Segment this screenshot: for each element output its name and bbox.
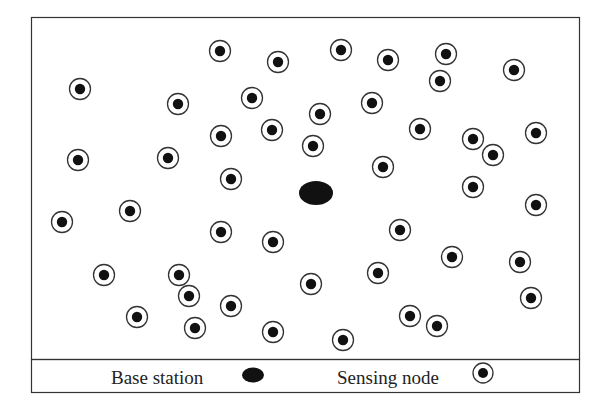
sensing-node-core bbox=[468, 134, 478, 144]
sensing-node-core bbox=[338, 335, 348, 345]
sensing-node bbox=[263, 322, 284, 343]
sensing-node-core bbox=[215, 46, 225, 56]
base-station bbox=[299, 181, 333, 205]
sensing-node bbox=[362, 93, 383, 114]
sensing-node-core bbox=[378, 162, 388, 172]
sensing-node bbox=[400, 306, 421, 327]
sensing-node-core bbox=[531, 128, 541, 138]
sensing-node bbox=[68, 150, 89, 171]
sensing-node-core bbox=[268, 237, 278, 247]
sensing-node bbox=[185, 318, 206, 339]
sensing-node-core bbox=[216, 227, 226, 237]
sensing-node-core bbox=[267, 125, 277, 135]
sensing-node bbox=[211, 222, 232, 243]
sensing-node-core bbox=[57, 217, 67, 227]
sensing-node bbox=[430, 71, 451, 92]
sensing-node bbox=[436, 44, 457, 65]
sensing-node-core bbox=[226, 301, 236, 311]
sensing-node bbox=[373, 157, 394, 178]
legend-base-station-icon bbox=[242, 368, 264, 383]
sensing-node-core bbox=[415, 124, 425, 134]
sensing-node-core bbox=[132, 312, 142, 322]
sensing-node-core bbox=[99, 270, 109, 280]
sensing-node-core bbox=[216, 131, 226, 141]
sensing-node bbox=[158, 148, 179, 169]
sensing-node-core bbox=[468, 182, 478, 192]
legend-sensing-node-label: Sensing node bbox=[337, 367, 439, 388]
sensing-node bbox=[310, 104, 331, 125]
sensing-node bbox=[333, 330, 354, 351]
sensing-node-core bbox=[367, 98, 377, 108]
sensing-node bbox=[70, 79, 91, 100]
sensing-node-core bbox=[125, 206, 135, 216]
sensing-node bbox=[221, 296, 242, 317]
sensing-node-core bbox=[174, 270, 184, 280]
sensing-node-core bbox=[315, 109, 325, 119]
sensing-node-core bbox=[190, 323, 200, 333]
sensing-node-core bbox=[509, 65, 519, 75]
sensing-node bbox=[210, 41, 231, 62]
sensing-node bbox=[463, 177, 484, 198]
sensing-node-core bbox=[447, 252, 457, 262]
sensing-node bbox=[262, 120, 283, 141]
sensing-node-core bbox=[247, 93, 257, 103]
sensing-node bbox=[427, 316, 448, 337]
sensing-nodes-group bbox=[52, 40, 547, 351]
sensing-node-core bbox=[435, 76, 445, 86]
sensing-node-core bbox=[73, 155, 83, 165]
sensing-node-core bbox=[405, 311, 415, 321]
sensing-node bbox=[211, 126, 232, 147]
sensing-node-core bbox=[75, 84, 85, 94]
sensing-node-core bbox=[173, 99, 183, 109]
sensing-node bbox=[120, 201, 141, 222]
sensing-node bbox=[368, 263, 389, 284]
sensing-node bbox=[168, 94, 189, 115]
sensing-node bbox=[221, 169, 242, 190]
sensing-node bbox=[263, 232, 284, 253]
sensing-node-core bbox=[488, 150, 498, 160]
sensing-node bbox=[52, 212, 73, 233]
sensing-node bbox=[127, 307, 148, 328]
sensing-node-core bbox=[395, 225, 405, 235]
sensing-node bbox=[94, 265, 115, 286]
sensing-node-core bbox=[273, 57, 283, 67]
sensing-node-core bbox=[163, 153, 173, 163]
sensing-node bbox=[410, 119, 431, 140]
sensing-node-core bbox=[432, 321, 442, 331]
sensing-node-core bbox=[184, 291, 194, 301]
sensing-node bbox=[526, 195, 547, 216]
legend: Base station Sensing node bbox=[111, 363, 493, 388]
sensing-node bbox=[303, 136, 324, 157]
sensing-node-core bbox=[373, 268, 383, 278]
legend-sensing-node-icon bbox=[473, 363, 493, 383]
sensing-node bbox=[378, 50, 399, 71]
sensing-node-core bbox=[526, 293, 536, 303]
sensing-node bbox=[242, 88, 263, 109]
sensing-node-core bbox=[441, 49, 451, 59]
sensing-node bbox=[526, 123, 547, 144]
sensing-node bbox=[331, 40, 352, 61]
sensing-node-core bbox=[226, 174, 236, 184]
sensing-node bbox=[521, 288, 542, 309]
sensing-node bbox=[504, 60, 525, 81]
sensing-node-core bbox=[306, 279, 316, 289]
sensing-node bbox=[463, 129, 484, 150]
sensing-node bbox=[510, 252, 531, 273]
sensing-node bbox=[268, 52, 289, 73]
sensing-node-core bbox=[308, 141, 318, 151]
sensing-node-core bbox=[336, 45, 346, 55]
sensing-node-core bbox=[531, 200, 541, 210]
sensing-node bbox=[169, 265, 190, 286]
sensing-node bbox=[301, 274, 322, 295]
sensing-node bbox=[390, 220, 411, 241]
sensing-node bbox=[179, 286, 200, 307]
sensing-node-core bbox=[268, 327, 278, 337]
sensing-node-core bbox=[515, 257, 525, 267]
sensing-node-core bbox=[383, 55, 393, 65]
sensing-node bbox=[483, 145, 504, 166]
sensing-node bbox=[442, 247, 463, 268]
sensor-network-diagram: Base station Sensing node bbox=[0, 0, 608, 409]
legend-base-station-label: Base station bbox=[111, 367, 204, 388]
